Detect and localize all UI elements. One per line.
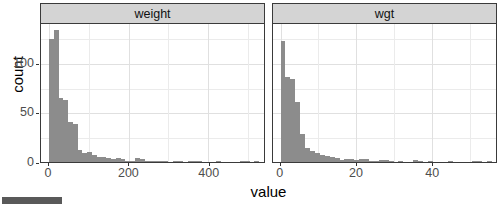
facet-strip-label: weight bbox=[40, 3, 265, 24]
y-tick-mark bbox=[36, 163, 39, 164]
histogram-facet-plot: count 050100 weightwgt 020040002040 valu… bbox=[0, 0, 499, 207]
plot-panel-weight bbox=[40, 24, 265, 163]
histogram-bar bbox=[254, 161, 259, 162]
y-tick-label: 0 bbox=[0, 156, 34, 169]
y-tick-label: 100 bbox=[0, 57, 34, 70]
x-axis-column-wgt: 02040 bbox=[272, 163, 497, 185]
x-axis-ticks: 020040002040 bbox=[40, 163, 497, 185]
x-tick-label: 200 bbox=[118, 167, 139, 180]
facet-panels: weightwgt bbox=[40, 3, 497, 163]
histogram-bar bbox=[197, 161, 202, 162]
y-axis-ticks: 050100 bbox=[0, 0, 34, 207]
facet-column-weight: weight bbox=[40, 3, 265, 163]
histogram-bar bbox=[398, 161, 403, 162]
histogram-bars bbox=[41, 24, 264, 162]
x-tick-label: 40 bbox=[425, 167, 439, 180]
histogram-bar bbox=[389, 161, 394, 162]
facet-strip-label: wgt bbox=[272, 3, 497, 24]
x-tick-label: 0 bbox=[45, 167, 52, 180]
facet-column-wgt: wgt bbox=[272, 3, 497, 163]
histogram-bar bbox=[216, 161, 221, 162]
x-tick-label: 0 bbox=[276, 167, 283, 180]
x-axis-title: value bbox=[40, 183, 497, 200]
histogram-bar bbox=[487, 161, 492, 162]
histogram-bar bbox=[245, 161, 250, 162]
histogram-bar bbox=[428, 161, 433, 162]
histogram-bar bbox=[178, 161, 183, 162]
histogram-bar bbox=[448, 161, 453, 162]
histogram-bar bbox=[418, 161, 423, 162]
y-tick-mark bbox=[36, 64, 39, 65]
plot-panel-wgt bbox=[272, 24, 497, 163]
x-axis-column-weight: 0200400 bbox=[40, 163, 265, 185]
y-tick-mark bbox=[36, 113, 39, 114]
x-tick-label: 400 bbox=[198, 167, 219, 180]
histogram-bars bbox=[273, 24, 496, 162]
histogram-bar bbox=[164, 161, 169, 162]
x-tick-label: 20 bbox=[349, 167, 363, 180]
histogram-bar bbox=[477, 161, 482, 162]
y-tick-label: 50 bbox=[0, 106, 34, 119]
bottom-scroll-bar[interactable] bbox=[2, 197, 62, 204]
